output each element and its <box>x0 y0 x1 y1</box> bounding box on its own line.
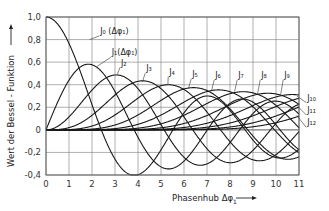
y-tick-label: 1,0 <box>27 12 41 22</box>
label-leader-line <box>297 115 307 127</box>
curve-label: J₁₁ <box>306 106 316 115</box>
y-axis-title-text: Wert der Bessel - Funktion <box>6 55 16 167</box>
y-tick-label: -0,4 <box>24 170 41 180</box>
x-tick-label: 7 <box>204 179 209 189</box>
bessel-function-chart: 1,00,80,60,40,20-0,2-0,4 01234567891011 … <box>0 0 329 211</box>
curve-label: J₆ <box>214 71 221 80</box>
curve-j7 <box>46 92 299 130</box>
x-tick-label: 8 <box>227 179 232 189</box>
y-tick-label: 0,2 <box>27 102 41 112</box>
y-axis-arrowhead-icon <box>9 24 13 29</box>
curve-label: J₇ <box>237 71 244 80</box>
x-axis-title-text: Phasenhub Δφ1 <box>172 193 237 205</box>
y-tick-label: 0,6 <box>27 57 41 67</box>
y-tick-label: 0 <box>36 125 41 135</box>
curve-label: J₁(Δφ₁) <box>111 48 138 57</box>
curve-label: J₀ (Δφ₁) <box>99 27 128 36</box>
y-tick-label: -0,2 <box>24 147 41 157</box>
curve-label: J₃ <box>145 64 152 73</box>
x-tick-label: 11 <box>294 179 305 189</box>
label-leader-line <box>90 36 100 40</box>
x-tick-label: 0 <box>43 179 48 189</box>
curve-label: J₄ <box>168 68 175 77</box>
label-leader-line <box>281 80 284 95</box>
label-leader-line <box>117 68 120 75</box>
label-leader-line <box>258 80 261 94</box>
x-axis-ticks: 01234567891011 <box>43 179 304 189</box>
bessel-curves <box>46 17 299 175</box>
curve-label: J₉ <box>283 71 290 80</box>
x-tick-label: 1 <box>66 179 71 189</box>
x-axis-arrowhead-icon <box>252 196 257 200</box>
x-tick-label: 5 <box>158 179 163 189</box>
y-axis-ticks: 1,00,80,60,40,20-0,2-0,4 <box>24 12 41 180</box>
y-axis-title: Wert der Bessel - Funktion <box>6 24 16 167</box>
label-leader-line <box>235 80 238 92</box>
label-leader-line <box>143 73 146 81</box>
curve-label: J₂ <box>120 59 127 68</box>
curve-label: J₁₂ <box>306 118 316 127</box>
y-tick-label: 0,8 <box>27 35 41 45</box>
x-tick-label: 9 <box>250 179 255 189</box>
x-tick-label: 2 <box>89 179 94 189</box>
label-leader-line <box>212 80 215 90</box>
x-tick-label: 4 <box>135 179 140 189</box>
x-tick-label: 3 <box>112 179 117 189</box>
curve-label: J₈ <box>260 71 267 80</box>
curve-label: J₅ <box>191 70 198 79</box>
x-tick-label: 10 <box>271 179 282 189</box>
x-axis-title: Phasenhub Δφ1 <box>172 193 257 205</box>
label-leader-line <box>297 96 307 103</box>
label-leader-line <box>189 79 192 88</box>
x-tick-label: 6 <box>181 179 186 189</box>
curve-label: J₁₀ <box>306 94 316 103</box>
y-tick-label: 0,4 <box>27 80 41 90</box>
